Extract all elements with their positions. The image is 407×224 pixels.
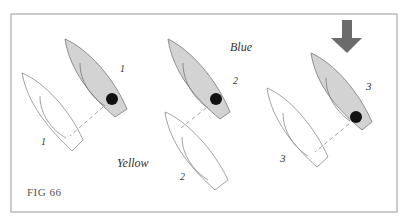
helmsman-dot bbox=[350, 111, 362, 123]
figure-caption: FIG 66 bbox=[27, 186, 61, 198]
blue-boat-1 bbox=[65, 39, 127, 117]
blue-boat-2 bbox=[168, 39, 230, 119]
helmsman-dot bbox=[106, 93, 118, 105]
helmsman-dot bbox=[210, 93, 222, 105]
figure-66-diagram: 1 1 2 2 3 3 bbox=[0, 0, 407, 224]
position-3: 3 3 bbox=[267, 53, 372, 167]
blue-position-label-3: 3 bbox=[365, 80, 372, 92]
yellow-position-label-1: 1 bbox=[41, 136, 46, 147]
yellow-boat-2 bbox=[165, 112, 228, 190]
blue-position-label-1: 1 bbox=[120, 63, 125, 74]
blue-position-label-2: 2 bbox=[233, 75, 238, 86]
overlap-dashed-line-1 bbox=[70, 107, 103, 136]
blue-boat-3 bbox=[311, 53, 372, 130]
wind-arrow-icon bbox=[331, 20, 362, 53]
yellow-position-label-3: 3 bbox=[279, 152, 286, 164]
blue-boat-label: Blue bbox=[230, 40, 253, 54]
yellow-boat-label: Yellow bbox=[117, 156, 149, 170]
yellow-boat-3 bbox=[267, 88, 328, 167]
position-1: 1 1 bbox=[22, 39, 127, 151]
yellow-boat-1 bbox=[22, 73, 83, 151]
position-2: 2 2 bbox=[165, 39, 238, 190]
overlap-dashed-line-3 bbox=[315, 124, 349, 152]
yellow-position-label-2: 2 bbox=[180, 171, 185, 182]
